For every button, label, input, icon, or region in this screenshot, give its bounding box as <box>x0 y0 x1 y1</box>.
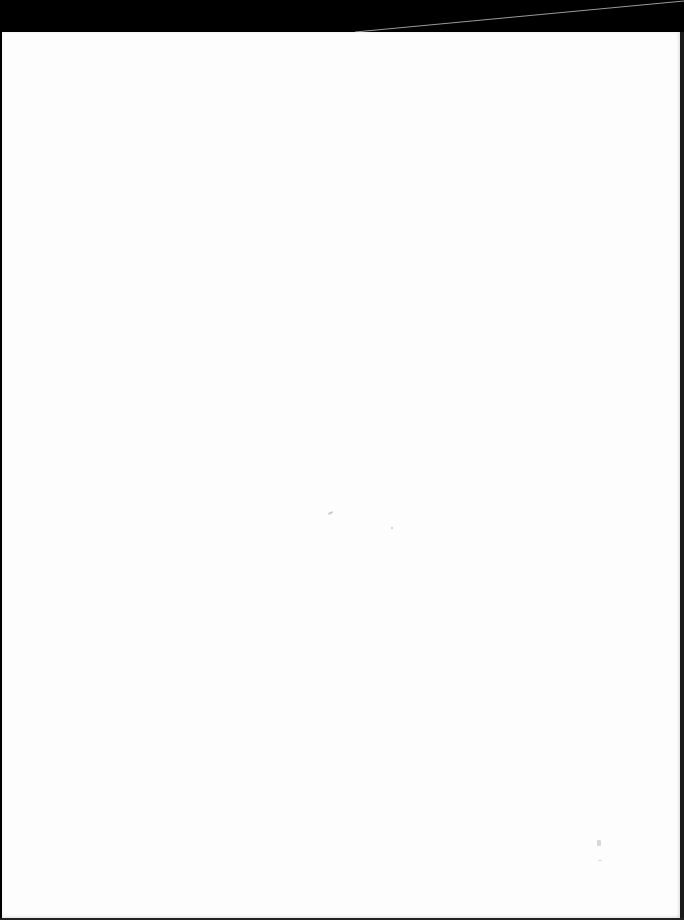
scan-speck <box>597 840 601 846</box>
page-content <box>2 32 680 918</box>
scan-right-border <box>680 32 684 920</box>
scan-speck <box>391 527 393 529</box>
scan-speck <box>598 860 602 861</box>
blank-page <box>2 32 680 918</box>
